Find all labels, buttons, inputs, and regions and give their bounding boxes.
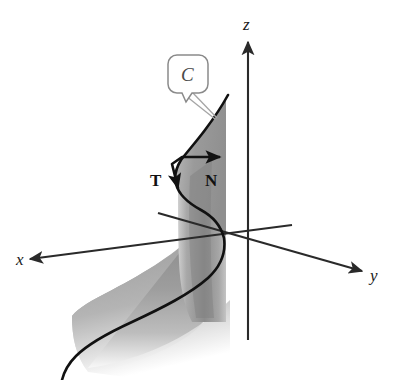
x-axis-label: x — [15, 250, 24, 269]
figure-canvas: x y z T N C — [0, 0, 396, 380]
normal-vector-label: N — [205, 171, 218, 190]
surface-group — [72, 96, 230, 380]
diagram-svg: x y z T N C — [0, 0, 396, 380]
callout-group: C — [168, 55, 217, 119]
callout-curve-label: C — [181, 64, 194, 85]
x-axis-line — [30, 225, 292, 259]
callout-leader-line-2 — [192, 92, 217, 118]
tangent-vector-label: T — [150, 171, 162, 190]
y-axis-label: y — [368, 266, 378, 285]
z-axis-label: z — [242, 15, 250, 34]
